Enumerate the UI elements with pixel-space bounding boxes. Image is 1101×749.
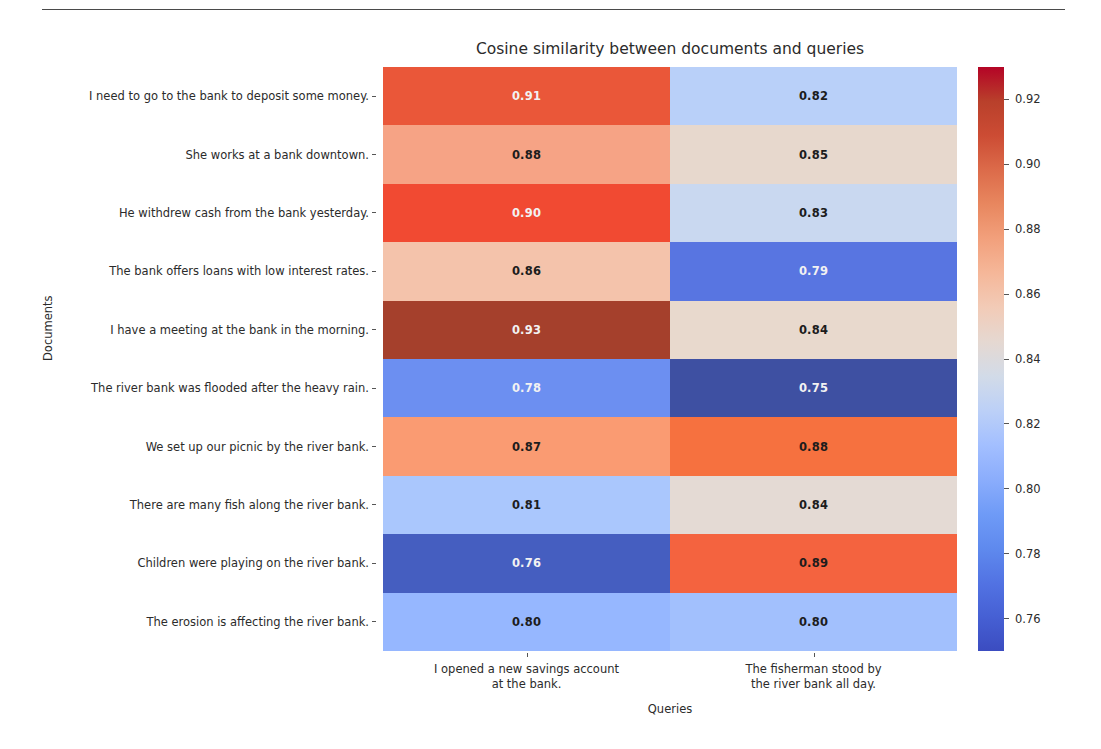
heatmap-cell-value: 0.91 — [512, 89, 541, 103]
x-axis-tick-label: I opened a new savings accountat the ban… — [383, 653, 670, 699]
y-axis-tick-text: We set up our picnic by the river bank. — [146, 440, 369, 454]
colorbar-tickmark — [1004, 618, 1009, 619]
colorbar-tick-label: 0.88 — [1015, 222, 1041, 236]
y-axis-tickmark — [372, 621, 376, 622]
y-axis-tick-text: The river bank was flooded after the hea… — [91, 381, 369, 395]
heatmap-cell: 0.88 — [670, 417, 957, 475]
x-axis-tick-text-line: I opened a new savings account — [383, 662, 670, 677]
colorbar-tick-label: 0.76 — [1015, 612, 1041, 626]
colorbar-tick: 0.82 — [1004, 417, 1041, 431]
heatmap-cell-value: 0.86 — [512, 264, 541, 278]
colorbar-tick: 0.90 — [1004, 157, 1041, 171]
heatmap-cell-value: 0.75 — [799, 381, 828, 395]
y-axis-tick-text: She works at a bank downtown. — [185, 148, 369, 162]
heatmap-cell-value: 0.85 — [799, 148, 828, 162]
heatmap-cell: 0.91 — [383, 67, 670, 125]
heatmap-cell-value: 0.88 — [512, 148, 541, 162]
heatmap-cell: 0.81 — [383, 476, 670, 534]
heatmap-cell: 0.83 — [670, 184, 957, 242]
x-axis-tick-text-line: The fisherman stood by — [670, 662, 957, 677]
y-axis-tickmark — [372, 212, 376, 213]
heatmap-cell: 0.86 — [383, 242, 670, 300]
heatmap-cell: 0.93 — [383, 301, 670, 359]
colorbar-tick-label: 0.86 — [1015, 287, 1041, 301]
x-axis-ticklabels: I opened a new savings accountat the ban… — [383, 653, 957, 699]
colorbar-tick: 0.86 — [1004, 287, 1041, 301]
heatmap-cell-value: 0.87 — [512, 440, 541, 454]
heatmap-cell-value: 0.83 — [799, 206, 828, 220]
heatmap-cell: 0.89 — [670, 534, 957, 592]
y-axis-tick-text: I have a meeting at the bank in the morn… — [110, 323, 369, 337]
heatmap-cell-value: 0.84 — [799, 498, 828, 512]
heatmap-cell-value: 0.81 — [512, 498, 541, 512]
colorbar-tickmark — [1004, 359, 1009, 360]
heatmap-cell: 0.79 — [670, 242, 957, 300]
y-axis-tick-label: We set up our picnic by the river bank. — [46, 417, 376, 475]
x-axis-tickmark — [814, 653, 815, 657]
heatmap-cell-value: 0.84 — [799, 323, 828, 337]
heatmap-cell: 0.85 — [670, 125, 957, 183]
y-axis-tick-text: Children were playing on the river bank. — [137, 556, 369, 570]
colorbar-tick-label: 0.80 — [1015, 482, 1041, 496]
y-axis-tickmark — [372, 329, 376, 330]
y-axis-tick-text: I need to go to the bank to deposit some… — [89, 89, 369, 103]
heatmap-cell: 0.84 — [670, 301, 957, 359]
heatmap-cell: 0.75 — [670, 359, 957, 417]
heatmap-cell: 0.82 — [670, 67, 957, 125]
y-axis-tick-label: He withdrew cash from the bank yesterday… — [46, 184, 376, 242]
y-axis-tickmark — [372, 504, 376, 505]
colorbar-tick-label: 0.78 — [1015, 547, 1041, 561]
heatmap-cell-value: 0.78 — [512, 381, 541, 395]
colorbar-tick: 0.78 — [1004, 547, 1041, 561]
colorbar-tick: 0.80 — [1004, 482, 1041, 496]
heatmap-cell: 0.87 — [383, 417, 670, 475]
heatmap-cell: 0.80 — [383, 593, 670, 651]
y-axis-tickmark — [372, 96, 376, 97]
heatmap-cell: 0.80 — [670, 593, 957, 651]
heatmap-cell-value: 0.88 — [799, 440, 828, 454]
colorbar-tickmark — [1004, 229, 1009, 230]
heatmap-cell: 0.78 — [383, 359, 670, 417]
heatmap-cell-value: 0.80 — [512, 615, 541, 629]
x-axis-title: Queries — [383, 702, 957, 716]
y-axis-tick-label: I have a meeting at the bank in the morn… — [46, 301, 376, 359]
y-axis-tick-label: The bank offers loans with low interest … — [46, 242, 376, 300]
colorbar-tick: 0.92 — [1004, 92, 1041, 106]
colorbar-tickmark — [1004, 423, 1009, 424]
colorbar-tick-label: 0.92 — [1015, 92, 1041, 106]
colorbar-gradient — [978, 67, 1004, 651]
x-axis-tick-label: The fisherman stood bythe river bank all… — [670, 653, 957, 699]
colorbar-ticklabels: 0.760.780.800.820.840.860.880.900.92 — [1004, 67, 1074, 651]
y-axis-ticklabels: I need to go to the bank to deposit some… — [46, 67, 376, 651]
colorbar-tick-label: 0.84 — [1015, 352, 1041, 366]
y-axis-tick-label: The erosion is affecting the river bank. — [46, 593, 376, 651]
y-axis-tick-label: There are many fish along the river bank… — [46, 476, 376, 534]
y-axis-tickmark — [372, 563, 376, 564]
y-axis-tick-text: He withdrew cash from the bank yesterday… — [119, 206, 369, 220]
heatmap-cell-value: 0.89 — [799, 556, 828, 570]
colorbar: 0.760.780.800.820.840.860.880.900.92 — [978, 67, 1004, 651]
y-axis-tickmark — [372, 388, 376, 389]
heatmap-cells-grid: 0.910.820.880.850.900.830.860.790.930.84… — [383, 67, 957, 651]
y-axis-tick-label: She works at a bank downtown. — [46, 125, 376, 183]
colorbar-tickmark — [1004, 553, 1009, 554]
y-axis-tick-label: I need to go to the bank to deposit some… — [46, 67, 376, 125]
heatmap-cell-value: 0.93 — [512, 323, 541, 337]
y-axis-tickmark — [372, 446, 376, 447]
colorbar-tickmark — [1004, 164, 1009, 165]
heatmap-cell: 0.90 — [383, 184, 670, 242]
colorbar-tick-label: 0.82 — [1015, 417, 1041, 431]
heatmap-cell-value: 0.80 — [799, 615, 828, 629]
colorbar-tickmark — [1004, 488, 1009, 489]
heatmap-figure: Cosine similarity between documents and … — [0, 0, 1101, 749]
x-axis-tickmark — [527, 653, 528, 657]
colorbar-tick: 0.84 — [1004, 352, 1041, 366]
heatmap-cell: 0.88 — [383, 125, 670, 183]
y-axis-tick-text: The bank offers loans with low interest … — [109, 264, 369, 278]
colorbar-tick: 0.88 — [1004, 222, 1041, 236]
heatmap-cell: 0.76 — [383, 534, 670, 592]
y-axis-tick-label: Children were playing on the river bank. — [46, 534, 376, 592]
heatmap-cell-value: 0.82 — [799, 89, 828, 103]
x-axis-tick-text-line: at the bank. — [383, 677, 670, 692]
y-axis-tickmark — [372, 271, 376, 272]
